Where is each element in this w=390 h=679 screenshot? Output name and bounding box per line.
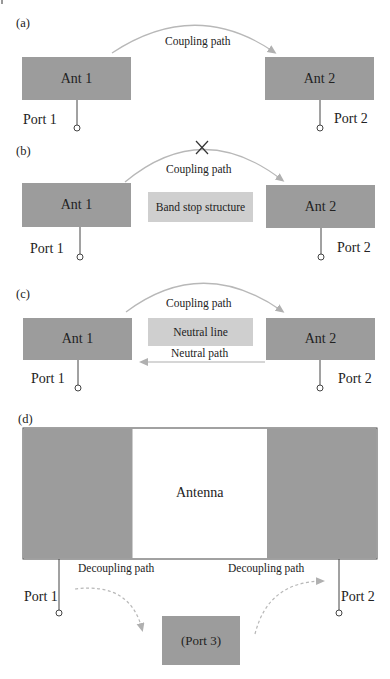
port3-box: (Port 3): [162, 616, 240, 665]
ant1-label: Ant 1: [62, 331, 94, 347]
port2-label-b: Port 2: [337, 241, 371, 255]
ant1-c: Ant 1: [23, 318, 132, 360]
port2-terminal-b: [318, 254, 324, 260]
port1-label-a: Port 1: [23, 113, 57, 127]
port1-terminal-d: [56, 610, 62, 616]
antenna-right-radiator: [267, 429, 377, 559]
coupling-path-label-c: Coupling path: [166, 298, 232, 310]
port1-terminal-b: [77, 254, 83, 260]
panel-label-a: (a): [16, 17, 30, 30]
ant2-label: Ant 2: [304, 71, 336, 87]
coupling-path-label-b: Coupling path: [166, 164, 232, 176]
port1-label-c: Port 1: [31, 372, 65, 386]
port3-label: (Port 3): [181, 633, 221, 649]
antenna-label: Antenna: [176, 486, 223, 500]
ant1-b: Ant 1: [22, 183, 131, 227]
band-stop-label: Band stop structure: [156, 201, 245, 213]
port1-label-b: Port 1: [30, 242, 64, 256]
port1-terminal-a: [74, 125, 80, 131]
ant2-a: Ant 2: [265, 57, 374, 100]
port1-terminal-c: [75, 385, 81, 391]
port2-label-a: Port 2: [334, 112, 368, 126]
decoupling-path-label-left: Decoupling path: [78, 563, 154, 575]
ant1-label: Ant 1: [61, 197, 93, 213]
port2-terminal-d: [336, 610, 342, 616]
port2-terminal-a: [317, 125, 323, 131]
port2-label-c: Port 2: [338, 372, 372, 386]
decoupling-arrow-right: [255, 581, 322, 634]
ant2-label: Ant 2: [305, 331, 337, 347]
ant2-b: Ant 2: [266, 185, 375, 228]
ant1-label: Ant 1: [61, 71, 93, 87]
neutral-line-label: Neutral line: [173, 326, 228, 338]
coupling-path-label-a: Coupling path: [165, 36, 231, 48]
port2-terminal-c: [317, 385, 323, 391]
port2-label-d: Port 2: [341, 590, 375, 604]
panel-label-b: (b): [16, 145, 31, 158]
neutral-line: Neutral line: [148, 318, 253, 346]
band-stop-structure: Band stop structure: [148, 192, 253, 222]
panel-label-d: (d): [18, 413, 33, 426]
antenna-left-radiator: [24, 429, 133, 559]
decoupling-arrow-left: [75, 588, 142, 629]
ant1-a: Ant 1: [22, 57, 131, 100]
neutral-path-label: Neutral path: [171, 348, 228, 360]
ant2-c: Ant 2: [266, 318, 375, 360]
ant2-label: Ant 2: [305, 199, 337, 215]
port1-label-d: Port 1: [24, 590, 58, 604]
panel-label-c: (c): [16, 288, 30, 301]
decoupling-path-label-right: Decoupling path: [228, 563, 304, 575]
